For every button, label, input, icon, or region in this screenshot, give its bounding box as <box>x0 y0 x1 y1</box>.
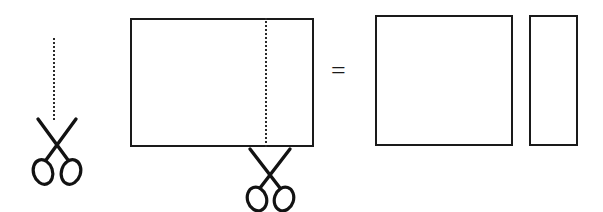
diagram-canvas: = <box>0 0 603 212</box>
result-square <box>375 15 513 146</box>
scissors-icon <box>243 148 297 212</box>
scissors-icon <box>30 118 84 186</box>
result-strip <box>529 15 578 146</box>
cut-line <box>265 18 267 147</box>
source-rectangle <box>130 18 314 147</box>
equals-sign: = <box>331 58 346 84</box>
legend-cut-line <box>53 38 55 120</box>
